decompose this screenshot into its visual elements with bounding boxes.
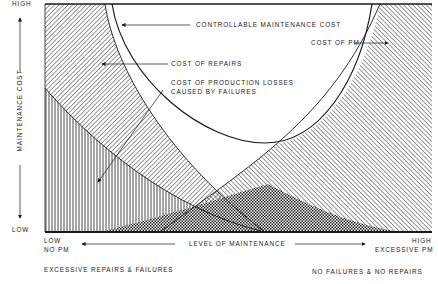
- y-axis-label: MAINTENANCE COST: [16, 82, 23, 152]
- x-axis-right-line2: EXCESSIVE PM: [375, 246, 433, 253]
- footer-right: NO FAILURES & NO REPAIRS: [312, 268, 423, 275]
- x-axis-label: LEVEL OF MAINTENANCE: [189, 240, 286, 247]
- x-axis-left-line1: LOW: [44, 237, 61, 244]
- x-axis-right-line1: HIGH: [412, 237, 432, 244]
- pm-cost-label: COST OF PM: [311, 39, 360, 46]
- production-losses-label-2: CAUSED BY FAILURES: [171, 88, 257, 95]
- footer-left: EXCESSIVE REPAIRS & FAILURES: [44, 266, 174, 273]
- x-axis-left-line2: NO PM: [44, 246, 69, 253]
- controllable-cost-label: CONTROLLABLE MAINTENANCE COST: [196, 21, 341, 28]
- repairs-cost-label: COST OF REPAIRS: [171, 60, 242, 67]
- y-axis-low: LOW: [12, 226, 29, 233]
- production-losses-label-1: COST OF PRODUCTION LOSSES: [171, 79, 294, 86]
- y-axis-high: HIGH: [12, 0, 32, 7]
